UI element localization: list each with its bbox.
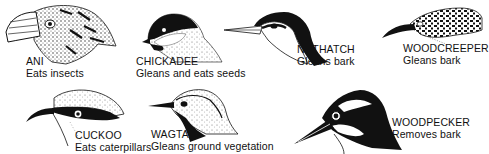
nuthatch-label: NUTHATCH Gleans bark [297,44,355,67]
bird-nuthatch: NUTHATCH Gleans bark [220,0,360,80]
bird-description: Gleans bark [403,55,489,67]
ani-label: ANI Eats insects [26,56,84,79]
bird-ani: ANI Eats insects [0,0,130,80]
bird-name: WAGTAIL [151,129,274,141]
bird-name: WOODCREEPER [403,43,489,55]
bird-name: ANI [26,56,84,68]
bird-description: Eats insects [26,68,84,80]
bird-description: Eats caterpillars [75,142,151,154]
bird-woodpecker: WOODPECKER Removes bark [292,88,482,154]
bird-woodcreeper: WOODCREEPER Gleans bark [380,0,482,80]
woodpecker-label: WOODPECKER Removes bark [392,117,470,140]
bird-name: NUTHATCH [297,44,355,56]
bird-description: Removes bark [392,129,470,141]
bird-description: Gleans bark [297,56,355,68]
woodcreeper-label: WOODCREEPER Gleans bark [403,43,489,66]
woodpecker-head-illustration [292,88,402,154]
bird-cuckoo: CUCKOO Eats caterpillars [24,88,154,154]
cuckoo-label: CUCKOO Eats caterpillars [75,130,151,153]
bird-name: CUCKOO [75,130,151,142]
bird-name: WOODPECKER [392,117,470,129]
bird-description: Gleans ground vegetation [151,141,274,153]
bird-wagtail: WAGTAIL Gleans ground vegetation [146,88,316,154]
wagtail-label: WAGTAIL Gleans ground vegetation [151,129,274,152]
